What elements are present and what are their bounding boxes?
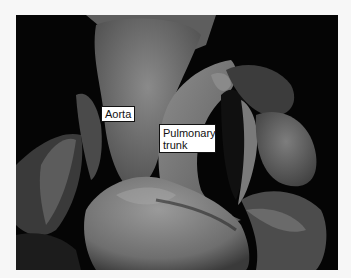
aorta-label-text: Aorta <box>105 108 131 120</box>
pulmonary-label-line1: Pulmonary <box>163 127 213 139</box>
pulmonary-label-line2: trunk <box>163 139 213 151</box>
heart-photograph: Aorta Pulmonary trunk <box>16 15 338 270</box>
pulmonary-trunk-label: Pulmonary trunk <box>159 124 216 153</box>
aorta-label: Aorta <box>101 106 135 122</box>
